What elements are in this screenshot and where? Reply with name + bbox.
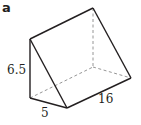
visible-edges: [30, 8, 131, 108]
width-label: 5: [41, 106, 49, 120]
hidden-edge-back-width: [30, 67, 93, 98]
edge-back-hypotenuse: [93, 8, 131, 78]
length-label: 16: [98, 92, 113, 106]
edge-top-length: [30, 8, 93, 39]
edge-front-hypotenuse: [30, 39, 67, 108]
panel-label: a: [2, 0, 11, 16]
height-label: 6.5: [7, 63, 26, 77]
